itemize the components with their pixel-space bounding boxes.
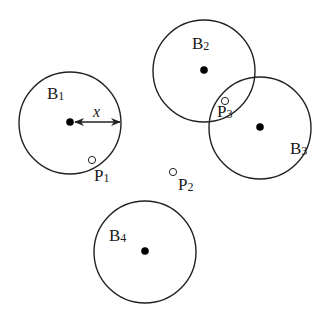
circle-b2: B2	[153, 20, 255, 122]
hollow-point-icon	[88, 156, 95, 163]
point-label-p2: P2	[178, 175, 193, 194]
circle-label-b4-letter: B	[109, 226, 120, 245]
circle-label-b2-index: 2	[203, 39, 209, 53]
circle-label-b2: B2	[192, 34, 209, 53]
center-dot-icon	[66, 118, 74, 126]
circle-label-b1: B1	[47, 84, 64, 103]
point-label-p1: P1	[94, 166, 109, 185]
circle-label-b3-letter: B	[290, 139, 301, 158]
points-layer: P1P2P3	[88, 97, 232, 194]
point-label-p1-letter: P	[94, 166, 103, 185]
center-dot-icon	[141, 247, 149, 255]
circle-label-b1-letter: B	[47, 84, 58, 103]
hollow-point-icon	[169, 168, 176, 175]
circle-b4: B4	[94, 201, 196, 303]
circle-label-b1-index: 1	[58, 89, 64, 103]
point-label-p1-index: 1	[103, 171, 109, 185]
circle-label-b3-index: 3	[301, 144, 307, 158]
center-dot-icon	[200, 66, 208, 74]
point-p2: P2	[169, 168, 193, 194]
radius-arrow: x	[75, 103, 120, 122]
circle-label-b2-letter: B	[192, 34, 203, 53]
radius-label: x	[92, 103, 100, 120]
circle-label-b4-index: 4	[120, 231, 126, 245]
circle-label-b4: B4	[109, 226, 126, 245]
circles-layer: B1B2B3B4	[19, 20, 311, 303]
point-label-p2-index: 2	[187, 180, 193, 194]
circle-label-b3: B3	[290, 139, 307, 158]
point-label-p3-letter: P	[217, 102, 226, 121]
point-label-p3-index: 3	[226, 107, 232, 121]
point-label-p2-letter: P	[178, 175, 187, 194]
diagram-canvas: B1B2B3B4 P1P2P3 x	[0, 0, 327, 323]
point-p3: P3	[217, 97, 232, 121]
center-dot-icon	[256, 123, 264, 131]
circle-b1: B1	[19, 72, 121, 174]
point-label-p3: P3	[217, 102, 232, 121]
circle-b3: B3	[209, 77, 311, 179]
diagram-svg: B1B2B3B4 P1P2P3 x	[0, 0, 327, 323]
point-p1: P1	[88, 156, 109, 185]
